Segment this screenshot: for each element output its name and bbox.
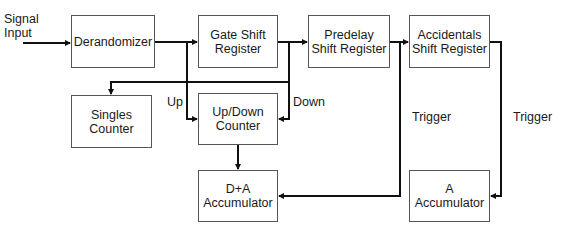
signal-label-line2: Input: [4, 26, 39, 40]
accidentals-label-line1: Accidentals: [412, 28, 487, 42]
up-arrow: [187, 42, 197, 119]
accidentals-label-line2: Shift Register: [412, 42, 487, 56]
da-label-line2: Accumulator: [203, 196, 272, 210]
down-arrow: [279, 42, 289, 119]
signal-label-line1: Signal: [4, 12, 39, 26]
trigger-to-a-arrow: [490, 42, 501, 196]
a-label-line1: A: [415, 182, 484, 196]
a-label-line2: Accumulator: [415, 196, 484, 210]
singles-label-line2: Counter: [89, 122, 133, 136]
singles-label-line1: Singles: [89, 108, 133, 122]
trigger-label-1: Trigger: [412, 110, 451, 124]
derandomizer-label: Derandomizer: [74, 35, 153, 49]
trigger-label-2: Trigger: [513, 110, 552, 124]
da-accumulator-block: D+AAccumulator: [198, 170, 278, 222]
predelay-label-line1: Predelay: [311, 28, 386, 42]
da-label-line1: D+A: [203, 182, 272, 196]
gate-shift-register-block: Gate ShiftRegister: [198, 15, 278, 68]
down-label: Down: [293, 95, 325, 109]
gate-label-line1: Gate Shift: [210, 28, 266, 42]
predelay-shift-register-block: PredelayShift Register: [308, 15, 390, 68]
gate-label-line2: Register: [210, 42, 266, 56]
updown-label-line2: Counter: [212, 119, 263, 133]
singles-counter-block: SinglesCounter: [71, 95, 152, 148]
accidentals-shift-register-block: AccidentalsShift Register: [409, 15, 490, 68]
updown-label-line1: Up/Down: [212, 105, 263, 119]
updown-counter-block: Up/DownCounter: [198, 93, 278, 145]
signal-input-label: Signal Input: [4, 12, 39, 40]
predelay-label-line2: Shift Register: [311, 42, 386, 56]
a-accumulator-block: AAccumulator: [409, 170, 490, 222]
up-label: Up: [167, 95, 183, 109]
derandomizer-block: Derandomizer: [71, 15, 155, 68]
